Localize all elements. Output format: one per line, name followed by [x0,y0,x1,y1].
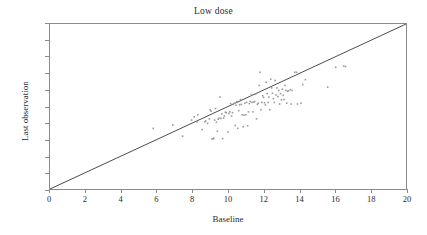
x-tick-label: 18 [367,194,376,204]
x-tick-label: 14 [295,194,304,204]
x-tick-label: 6 [154,194,158,204]
x-tick-label: 12 [260,194,269,204]
x-tick-label: 2 [83,194,87,204]
x-tick-mark [192,189,193,193]
y-tick-mark [45,56,49,57]
y-tick-mark [45,23,49,24]
x-tick-mark [264,189,265,193]
x-tick-label: 16 [331,194,340,204]
x-tick-label: 20 [403,194,412,204]
y-tick-mark [45,107,49,108]
y-axis-label: Last observation [20,31,30,191]
x-tick-mark [156,189,157,193]
x-tick-mark [228,189,229,193]
x-tick-mark [371,189,372,193]
y-tick-mark [45,40,49,41]
y-tick-mark [45,190,49,191]
x-tick-mark [300,189,301,193]
y-tick-mark [45,123,49,124]
x-tick-mark [121,189,122,193]
x-tick-mark [335,189,336,193]
x-tick-label: 4 [118,194,122,204]
x-tick-mark [407,189,408,193]
y-tick-mark [45,157,49,158]
x-tick-label: 0 [47,194,51,204]
x-tick-mark [85,189,86,193]
y-tick-mark [45,140,49,141]
x-tick-label: 10 [224,194,233,204]
figure-container: Low dose 0246810121416182002468101214161… [0,0,427,235]
y-tick-mark [45,173,49,174]
y-tick-mark [45,73,49,74]
y-tick-mark [45,90,49,91]
x-axis-label: Baseline [49,214,407,224]
axis-ticks-layer: 0246810121416182002468101214161820 [0,0,427,235]
x-tick-mark [49,189,50,193]
x-tick-label: 8 [190,194,194,204]
